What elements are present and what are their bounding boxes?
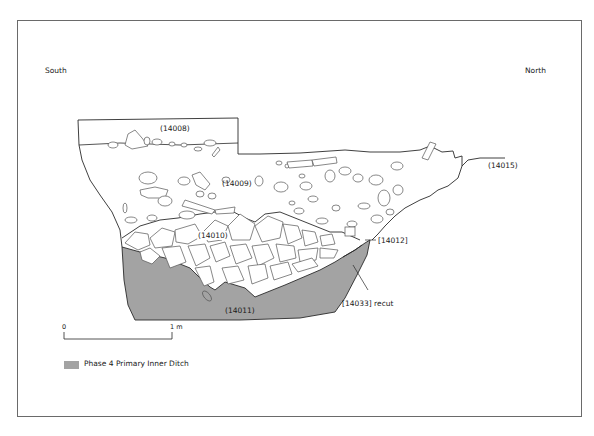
- section-left-edge: [78, 120, 122, 247]
- legend-swatch: [64, 361, 79, 369]
- section-drawing: [0, 0, 594, 436]
- label-cut-14033-recut: [14033] recut: [342, 299, 393, 308]
- label-context-14015: (14015): [488, 161, 518, 170]
- label-context-14010: (14010): [197, 231, 229, 240]
- stones-14009: [123, 142, 436, 227]
- scale-bar: [64, 332, 172, 339]
- orientation-south: South: [45, 66, 67, 75]
- label-context-14008: (14008): [160, 124, 190, 133]
- scale-bar-end: 1 m: [170, 323, 183, 332]
- scale-bar-start: 0: [62, 323, 66, 332]
- label-cut-14012: [14012]: [378, 236, 408, 245]
- legend-label: Phase 4 Primary Inner Ditch: [84, 359, 189, 368]
- label-context-14011: (14011): [225, 306, 255, 315]
- label-context-14009: (14009): [222, 179, 252, 188]
- orientation-north: North: [525, 66, 546, 75]
